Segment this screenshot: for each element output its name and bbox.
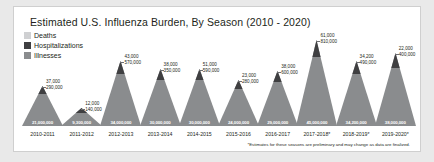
season-callout: 22,000400,000 <box>395 46 416 57</box>
callout-leader-line <box>42 87 46 88</box>
season-group: 24,000,00023,000280,0002015-2016 <box>218 33 259 137</box>
callout-leader-line <box>316 41 320 42</box>
illnesses-value: 24,000,000 <box>218 120 259 125</box>
season-callout: 61,000810,000 <box>316 33 337 44</box>
callout-leader-line <box>160 70 164 71</box>
season-triangle[interactable] <box>375 53 416 126</box>
season-triangle[interactable] <box>179 69 220 126</box>
season-callout: 38,000600,000 <box>277 64 298 75</box>
deaths-value: 38,000 <box>277 64 298 69</box>
season-callout: 37,000290,000 <box>42 79 63 90</box>
deaths-value: 61,000 <box>316 33 337 38</box>
deaths-value: 12,000 <box>81 101 102 106</box>
season-triangle[interactable] <box>100 61 141 126</box>
season-triangle[interactable] <box>296 40 337 126</box>
callout-leader-line <box>238 81 242 82</box>
season-callout: 34,200490,000 <box>356 54 377 65</box>
season-triangle[interactable] <box>336 61 377 126</box>
season-callout: 23,000280,000 <box>238 73 259 84</box>
chart-plot-area: 21,000,00037,000290,0002010-20119,300,00… <box>22 33 414 137</box>
illnesses-value: 45,000,000 <box>296 120 337 125</box>
season-group: 29,000,00038,000600,0002016-2017 <box>257 33 298 137</box>
season-triangle[interactable] <box>257 71 298 126</box>
callout-leader-line <box>199 70 203 71</box>
season-group: 9,300,00012,000140,0002011-2012 <box>61 33 102 137</box>
deaths-value: 37,000 <box>42 79 63 84</box>
season-group: 38,000,00022,000400,0002019-2020* <box>375 33 416 137</box>
illnesses-value: 21,000,000 <box>22 120 63 125</box>
season-triangle[interactable] <box>140 69 181 126</box>
season-callout: 43,000570,000 <box>120 54 141 65</box>
season-callout: 51,000590,000 <box>199 62 220 73</box>
season-callout: 12,000140,000 <box>81 101 102 112</box>
callout-leader-line <box>81 109 85 110</box>
season-group: 34,000,00043,000570,0002012-2013 <box>100 33 141 137</box>
chart-footnote: *Estimates for these seasons are prelimi… <box>247 142 410 147</box>
callout-leader-line <box>120 62 124 63</box>
season-group: 30,000,00038,000350,0002013-2014 <box>140 33 181 137</box>
callout-leader-line <box>277 72 281 73</box>
season-group: 34,200,00034,200490,0002018-2019* <box>336 33 377 137</box>
season-label: 2019-2020* <box>372 131 419 137</box>
chart-page: Estimated U.S. Influenza Burden, By Seas… <box>0 0 434 162</box>
illnesses-value: 34,000,000 <box>100 120 141 125</box>
callout-leader-line <box>395 54 399 55</box>
illnesses-value: 30,000,000 <box>140 120 181 125</box>
deaths-value: 43,000 <box>120 54 141 59</box>
illnesses-value: 34,200,000 <box>336 120 377 125</box>
season-callout: 38,000350,000 <box>160 62 181 73</box>
illnesses-value: 38,000,000 <box>375 120 416 125</box>
illnesses-value: 29,000,000 <box>257 120 298 125</box>
illnesses-value: 30,000,000 <box>179 120 220 125</box>
deaths-value: 23,000 <box>238 73 259 78</box>
chart-card: Estimated U.S. Influenza Burden, By Seas… <box>13 6 421 152</box>
illnesses-value: 9,300,000 <box>61 120 102 125</box>
season-group: 30,000,00051,000590,0002014-2015 <box>179 33 220 137</box>
season-group: 21,000,00037,000290,0002010-2011 <box>22 33 63 137</box>
season-group: 45,000,00061,000810,0002017-2018* <box>296 33 337 137</box>
chart-title: Estimated U.S. Influenza Burden, By Seas… <box>30 16 311 28</box>
callout-leader-line <box>356 62 360 63</box>
